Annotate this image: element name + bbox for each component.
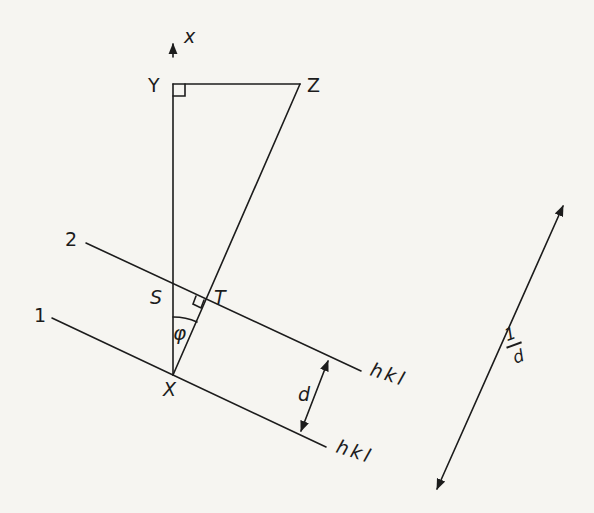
reciprocal-arrow-icon	[437, 206, 563, 489]
point-label-T: T	[214, 288, 226, 307]
diagram-canvas: x Y Z S T X φ 2 1 hkl hkl d 1 d	[0, 0, 594, 513]
diagram-lines	[0, 0, 594, 513]
point-label-Y: Y	[148, 76, 160, 95]
point-label-S: S	[150, 288, 162, 307]
reciprocal-denominator: d	[510, 345, 527, 367]
angle-label-phi: φ	[173, 323, 186, 343]
axis-label-x: x	[184, 27, 195, 46]
point-label-Z: Z	[307, 76, 320, 95]
line-ZX	[173, 84, 300, 375]
right-angle-Y-icon	[173, 84, 185, 96]
plane-number-1: 1	[34, 306, 46, 325]
point-label-X: X	[163, 380, 176, 399]
plane-number-2: 2	[65, 230, 77, 249]
spacing-label-d: d	[298, 385, 310, 404]
reciprocal-numerator: 1	[501, 322, 518, 344]
